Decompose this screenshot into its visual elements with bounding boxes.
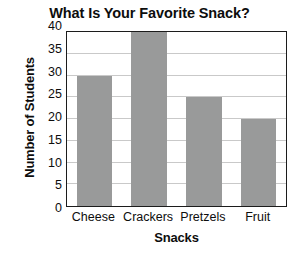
x-tick-label-cheese: Cheese — [66, 209, 121, 225]
bar-crackers — [131, 32, 166, 206]
y-tick-label: 20 — [26, 111, 62, 123]
x-axis-title: Snacks — [66, 230, 287, 245]
x-tick-label-fruit: Fruit — [230, 209, 285, 225]
y-tick-label: 10 — [26, 157, 62, 169]
y-axis-tick-labels: 0510152025303540 — [26, 26, 62, 208]
chart-title: What Is Your Favorite Snack? — [0, 5, 299, 21]
plot-area — [66, 31, 287, 207]
y-tick-label: 15 — [26, 134, 62, 146]
bar-cheese — [77, 76, 112, 207]
y-tick-label: 25 — [26, 88, 62, 100]
y-tick-label: 0 — [26, 202, 62, 214]
gridline — [67, 53, 286, 54]
bar-pretzels — [186, 97, 221, 206]
x-tick-label-pretzels: Pretzels — [176, 209, 231, 225]
y-tick-label: 5 — [26, 179, 62, 191]
x-tick-label-crackers: Crackers — [121, 209, 176, 225]
y-tick-label: 30 — [26, 66, 62, 78]
y-tick-label: 35 — [26, 43, 62, 55]
bar-fruit — [241, 119, 276, 206]
bar-chart-figure: What Is Your Favorite Snack? Number of S… — [0, 0, 299, 262]
y-tick-label: 40 — [26, 20, 62, 32]
x-axis-tick-labels: CheeseCrackersPretzelsFruit — [66, 209, 287, 229]
